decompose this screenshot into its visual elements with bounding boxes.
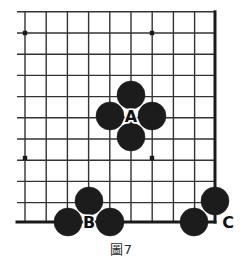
star-point xyxy=(23,31,27,35)
star-point xyxy=(150,31,154,35)
figure-container: AABBCC 圖7 xyxy=(0,0,243,273)
stone-b-left xyxy=(54,208,82,236)
figure-caption: 圖7 xyxy=(0,241,243,259)
stone-a-west xyxy=(96,102,124,130)
stone-b-right xyxy=(96,208,124,236)
stone-b-upper xyxy=(75,187,103,215)
point-label-a: A xyxy=(125,107,138,126)
point-label-b: B xyxy=(83,213,95,232)
stone-a-south xyxy=(117,123,145,151)
stone-c-left xyxy=(180,208,208,236)
stone-a-east xyxy=(138,102,166,130)
stones-layer xyxy=(54,81,229,236)
stone-c-upper xyxy=(201,187,229,215)
star-point xyxy=(150,156,154,160)
stone-a-north xyxy=(117,81,145,109)
point-label-c: C xyxy=(222,213,234,232)
go-board: AABBCC xyxy=(0,0,243,243)
star-point xyxy=(23,156,27,160)
